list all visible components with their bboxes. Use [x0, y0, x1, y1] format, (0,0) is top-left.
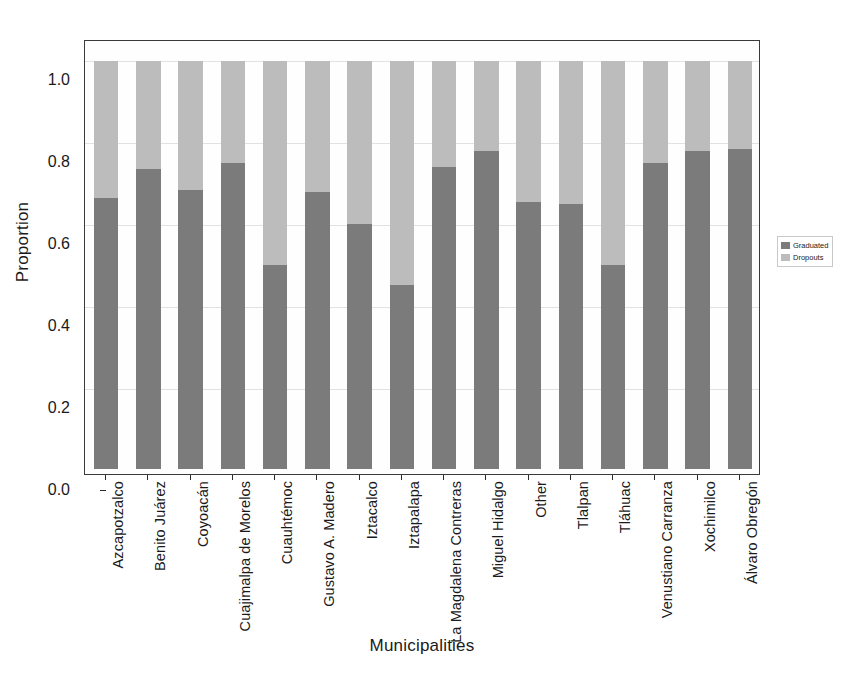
y-tick-label: 0.6 [22, 235, 70, 253]
bar-segment-graduated[interactable] [601, 265, 626, 469]
bars-layer [85, 41, 759, 474]
bar-segment-graduated[interactable] [432, 167, 457, 469]
bar-group[interactable] [728, 61, 753, 469]
x-tick-mark [316, 475, 317, 480]
x-tick-mark [274, 475, 275, 480]
bar-stack [643, 61, 668, 469]
bar-group[interactable] [474, 61, 499, 469]
bar-segment-dropouts[interactable] [221, 61, 246, 163]
x-tick-label: Iztacalco [364, 481, 380, 539]
x-axis-tick-labels: AzcapotzalcoBenito JuárezCoyoacánCuajima… [84, 475, 760, 625]
x-tick-mark [570, 475, 571, 480]
bar-group[interactable] [516, 61, 541, 469]
x-tick-mark [697, 475, 698, 480]
y-tick-label: 0.8 [22, 153, 70, 171]
bar-segment-dropouts[interactable] [601, 61, 626, 265]
bar-segment-dropouts[interactable] [347, 61, 372, 224]
bar-stack [516, 61, 541, 469]
bar-group[interactable] [390, 61, 415, 469]
x-tick-label: La Magdalena Contreras [448, 481, 464, 643]
x-tick-mark [105, 475, 106, 480]
legend-entry[interactable]: Dropouts [781, 252, 828, 263]
bar-group[interactable] [347, 61, 372, 469]
bar-segment-dropouts[interactable] [263, 61, 288, 265]
x-tick-label: Cuajimalpa de Morelos [237, 481, 253, 631]
bar-stack [94, 61, 119, 469]
bar-group[interactable] [263, 61, 288, 469]
bar-group[interactable] [178, 61, 203, 469]
bar-stack [136, 61, 161, 469]
bar-segment-graduated[interactable] [136, 169, 161, 469]
x-tick-mark [359, 475, 360, 480]
y-axis-tick-labels: 0.00.20.40.60.81.0 [22, 60, 70, 470]
bar-group[interactable] [136, 61, 161, 469]
stacked-bar-chart-figure: Proportion 0.00.20.40.60.81.0 Azcapotzal… [0, 0, 852, 688]
bar-stack [685, 61, 710, 469]
x-tick-mark [401, 475, 402, 480]
bar-segment-graduated[interactable] [474, 151, 499, 469]
x-tick-label: Other [533, 481, 549, 518]
bar-segment-dropouts[interactable] [685, 61, 710, 151]
bar-segment-dropouts[interactable] [432, 61, 457, 167]
bar-segment-dropouts[interactable] [390, 61, 415, 285]
bar-group[interactable] [685, 61, 710, 469]
chart-legend: GraduatedDropouts [777, 236, 833, 267]
bar-stack [390, 61, 415, 469]
y-tick-label: 0.0 [22, 481, 70, 499]
bar-segment-dropouts[interactable] [178, 61, 203, 190]
bar-segment-dropouts[interactable] [516, 61, 541, 202]
x-tick-mark [232, 475, 233, 480]
bar-group[interactable] [221, 61, 246, 469]
bar-group[interactable] [432, 61, 457, 469]
bar-segment-dropouts[interactable] [728, 61, 753, 149]
x-tick-label: Miguel Hidalgo [490, 481, 506, 578]
bar-stack [221, 61, 246, 469]
legend-entry[interactable]: Graduated [781, 240, 828, 251]
bar-segment-dropouts[interactable] [305, 61, 330, 192]
legend-label: Dropouts [793, 253, 823, 262]
x-tick-mark [739, 475, 740, 480]
bar-segment-graduated[interactable] [94, 198, 119, 469]
bar-stack [263, 61, 288, 469]
bar-group[interactable] [601, 61, 626, 469]
bar-segment-graduated[interactable] [728, 149, 753, 469]
x-tick-mark [612, 475, 613, 480]
bar-segment-graduated[interactable] [390, 285, 415, 469]
x-tick-label: Tlalpan [575, 481, 591, 529]
bar-segment-dropouts[interactable] [474, 61, 499, 151]
bar-segment-graduated[interactable] [305, 192, 330, 469]
x-tick-label: Azcapotzalco [110, 481, 126, 568]
legend-swatch-icon [781, 254, 790, 261]
x-tick-label: Cuauhtémoc [279, 481, 295, 564]
bar-segment-dropouts[interactable] [136, 61, 161, 169]
x-tick-label: Tláhuac [617, 481, 633, 533]
bar-segment-dropouts[interactable] [559, 61, 584, 204]
x-tick-mark [654, 475, 655, 480]
bar-segment-graduated[interactable] [221, 163, 246, 469]
bar-group[interactable] [94, 61, 119, 469]
x-tick-mark [190, 475, 191, 480]
bar-stack [474, 61, 499, 469]
x-tick-mark [528, 475, 529, 480]
x-axis-title: Municipalities [84, 636, 760, 656]
y-tick-label: 1.0 [22, 71, 70, 89]
bar-stack [305, 61, 330, 469]
legend-label: Graduated [793, 241, 828, 250]
bar-segment-graduated[interactable] [516, 202, 541, 469]
x-tick-label: Coyoacán [195, 481, 211, 547]
x-tick-label: Benito Juárez [152, 481, 168, 571]
bar-segment-dropouts[interactable] [94, 61, 119, 198]
bar-segment-graduated[interactable] [263, 265, 288, 469]
bar-segment-graduated[interactable] [559, 204, 584, 469]
bar-segment-graduated[interactable] [685, 151, 710, 469]
bar-group[interactable] [643, 61, 668, 469]
bar-segment-dropouts[interactable] [643, 61, 668, 163]
bar-segment-graduated[interactable] [347, 224, 372, 469]
bar-stack [432, 61, 457, 469]
bar-segment-graduated[interactable] [643, 163, 668, 469]
bar-group[interactable] [305, 61, 330, 469]
bar-group[interactable] [559, 61, 584, 469]
x-tick-mark [443, 475, 444, 480]
y-tick-label: 0.4 [22, 317, 70, 335]
bar-segment-graduated[interactable] [178, 190, 203, 469]
